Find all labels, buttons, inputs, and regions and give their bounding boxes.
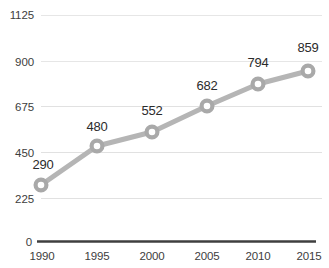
data-point-2005[interactable] bbox=[202, 101, 213, 112]
chart-canvas bbox=[0, 0, 329, 268]
value-label-1990: 290 bbox=[22, 158, 64, 172]
line-chart: 1125 900 675 450 225 0 1990 1995 2000 20… bbox=[0, 0, 329, 268]
value-label-2015: 859 bbox=[287, 41, 329, 55]
value-label-2005: 682 bbox=[186, 79, 228, 93]
xtick-label-2005: 2005 bbox=[182, 250, 232, 262]
xtick-label-2010: 2010 bbox=[233, 250, 283, 262]
data-point-2015[interactable] bbox=[303, 66, 314, 77]
value-label-1995: 480 bbox=[76, 120, 118, 134]
xtick-label-2015: 2015 bbox=[284, 250, 329, 262]
gridlines bbox=[41, 16, 322, 199]
data-point-2010[interactable] bbox=[253, 79, 264, 90]
ytick-label-0: 0 bbox=[0, 236, 32, 248]
ytick-label-225: 225 bbox=[0, 193, 34, 205]
xtick-label-1995: 1995 bbox=[72, 250, 122, 262]
data-point-1990[interactable] bbox=[36, 180, 47, 191]
value-label-2010: 794 bbox=[237, 56, 279, 70]
data-point-2000[interactable] bbox=[147, 127, 158, 138]
ytick-label-675: 675 bbox=[0, 101, 34, 113]
data-point-1995[interactable] bbox=[92, 141, 103, 152]
ytick-label-1125: 1125 bbox=[0, 9, 34, 21]
xtick-label-1990: 1990 bbox=[17, 250, 67, 262]
xtick-label-2000: 2000 bbox=[127, 250, 177, 262]
ytick-label-900: 900 bbox=[0, 56, 34, 68]
value-label-2000: 552 bbox=[131, 104, 173, 118]
